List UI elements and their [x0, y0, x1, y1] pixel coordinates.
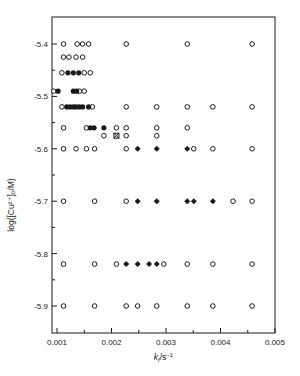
open-circle-marker: [185, 105, 190, 110]
y-axis-ticks: -5.4-5.5-5.6-5.7-5.8-5.9: [34, 40, 57, 311]
filled-circle-marker: [91, 125, 96, 130]
open-circle-marker: [92, 304, 97, 309]
open-circle-marker: [86, 42, 91, 47]
filled-diamond-marker: [154, 146, 160, 152]
open-circle-marker: [60, 71, 65, 76]
open-circle-marker: [185, 126, 190, 131]
open-circle-marker: [154, 105, 159, 110]
y-tick-label: -5.9: [34, 302, 48, 311]
filled-circle-marker: [71, 70, 76, 75]
filled-diamond-marker: [184, 198, 190, 204]
open-circle-marker: [74, 55, 79, 60]
open-circle-marker: [124, 105, 129, 110]
open-circle-marker: [82, 71, 87, 76]
open-circle-marker: [61, 126, 66, 131]
filled-diamond-marker: [191, 198, 197, 204]
filled-circle-marker: [101, 125, 106, 130]
open-circle-marker: [61, 262, 66, 267]
open-circle-marker: [82, 89, 87, 94]
open-circle-marker: [61, 55, 66, 60]
y-tick-label: -5.6: [34, 145, 48, 154]
open-circle-marker: [61, 199, 66, 204]
open-circle-marker: [75, 42, 80, 47]
open-circle-marker: [124, 199, 129, 204]
open-circle-marker: [114, 126, 119, 131]
open-circle-marker: [74, 147, 79, 152]
open-circle-marker: [51, 89, 56, 94]
open-circle-marker: [88, 71, 93, 76]
open-circle-marker: [61, 147, 66, 152]
open-circle-marker: [61, 42, 66, 47]
open-circle-marker: [61, 304, 66, 309]
y-axis-label: log([Cu²⁺]₀/M): [6, 178, 16, 232]
open-circle-marker: [250, 262, 255, 267]
y-tick-label: -5.8: [34, 250, 48, 259]
open-circle-marker: [154, 133, 159, 138]
open-circle-marker: [124, 304, 129, 309]
open-circle-marker: [135, 304, 140, 309]
open-circle-marker: [250, 199, 255, 204]
open-circle-marker: [92, 262, 97, 267]
open-circle-marker: [67, 55, 72, 60]
open-circle-marker: [211, 147, 216, 152]
plot-frame: [52, 17, 275, 333]
open-circle-marker: [154, 126, 159, 131]
filled-circle-marker: [74, 89, 79, 94]
open-circle-marker: [162, 262, 167, 267]
open-circle-marker: [250, 304, 255, 309]
open-circle-marker: [124, 42, 129, 47]
filled-diamond-marker: [135, 146, 141, 152]
x-tick-label: 0.001: [47, 338, 68, 347]
open-circle-marker: [92, 199, 97, 204]
filled-circle-marker: [86, 104, 91, 109]
x-tick-label: 0.002: [101, 338, 122, 347]
scatter-plot: 0.0010.0020.0030.0040.005 -5.4-5.5-5.6-5…: [0, 0, 300, 376]
open-circle-marker: [124, 133, 129, 138]
open-circle-marker: [250, 105, 255, 110]
filled-circle-marker: [65, 70, 70, 75]
filled-circle-marker: [80, 104, 85, 109]
y-tick-label: -5.5: [34, 92, 48, 101]
open-circle-marker: [92, 147, 97, 152]
open-circle-marker: [250, 42, 255, 47]
open-circle-marker: [80, 42, 85, 47]
open-circle-marker: [80, 55, 85, 60]
open-circle-marker: [154, 304, 159, 309]
open-circle-marker: [191, 147, 196, 152]
filled-diamond-marker: [210, 198, 216, 204]
open-circle-marker: [124, 147, 129, 152]
x-axis-ticks: 0.0010.0020.0030.0040.005: [47, 328, 286, 347]
filled-diamond-marker: [135, 198, 141, 204]
x-tick-label: 0.003: [156, 338, 177, 347]
filled-diamond-marker: [184, 146, 190, 152]
open-circle-marker: [231, 199, 236, 204]
open-circle-marker: [185, 262, 190, 267]
filled-diamond-marker: [123, 261, 129, 267]
open-circle-marker: [211, 304, 216, 309]
filled-diamond-marker: [154, 198, 160, 204]
filled-diamond-marker: [154, 261, 160, 267]
open-circle-marker: [211, 105, 216, 110]
y-tick-label: -5.4: [34, 40, 48, 49]
data-points: [51, 42, 254, 309]
filled-diamond-marker: [135, 261, 141, 267]
open-circle-marker: [185, 42, 190, 47]
filled-circle-marker: [76, 70, 81, 75]
filled-circle-marker: [55, 89, 60, 94]
y-tick-label: -5.7: [34, 197, 48, 206]
x-tick-label: 0.004: [210, 338, 231, 347]
x-axis-label: kf/s−1: [154, 352, 174, 363]
open-circle-marker: [185, 304, 190, 309]
scatter-figure: 0.0010.0020.0030.0040.005 -5.4-5.5-5.6-5…: [0, 0, 300, 376]
open-circle-marker: [114, 262, 119, 267]
open-circle-marker: [250, 147, 255, 152]
open-circle-marker: [124, 126, 129, 131]
open-circle-marker: [84, 147, 89, 152]
x-tick-label: 0.005: [265, 338, 286, 347]
open-circle-marker: [60, 105, 65, 110]
open-circle-marker: [211, 262, 216, 267]
filled-diamond-marker: [146, 261, 152, 267]
open-circle-marker: [102, 133, 107, 138]
